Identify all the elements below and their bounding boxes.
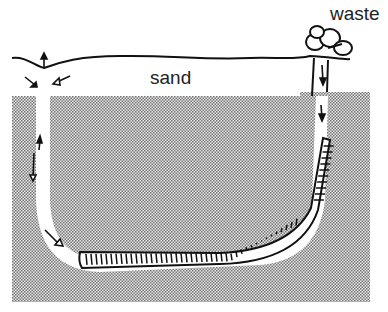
worm-segment: [196, 253, 197, 262]
lugworm-burrow-diagram: sand waste: [0, 0, 388, 312]
worm-segment: [256, 243, 257, 244]
arrow-down-left-icon: [53, 76, 70, 85]
worm-segment: [291, 222, 292, 228]
worm-segment: [126, 254, 127, 264]
worm-segment: [271, 235, 272, 237]
worm-segment: [151, 253, 152, 263]
worm-segment: [186, 253, 187, 262]
worm-segment: [111, 254, 112, 264]
worm-segment: [141, 253, 142, 263]
worm-segment: [161, 253, 162, 263]
worm-segment: [106, 254, 107, 265]
worm-segment: [296, 219, 297, 226]
worm-segment: [226, 253, 227, 262]
head-shaft-wall-right: [327, 60, 328, 92]
worm-segment: [156, 253, 157, 263]
worm-segment: [276, 231, 277, 234]
worm-segment: [266, 238, 267, 239]
worm-segment: [246, 247, 247, 251]
worm-segment: [286, 225, 287, 230]
worm-segment: [211, 253, 212, 262]
worm-segment: [221, 253, 222, 262]
arrow-down-icon: [320, 65, 326, 85]
worm-segment: [136, 254, 137, 264]
worm-segment: [171, 253, 172, 262]
label-sand: sand: [150, 67, 191, 88]
worm-segment: [236, 251, 237, 257]
worm-segment: [121, 254, 122, 264]
worm-segment: [231, 254, 232, 261]
worm-segment: [176, 253, 177, 262]
worm-segment: [166, 253, 167, 263]
worm-segment: [96, 254, 97, 265]
worm-segment: [91, 254, 92, 265]
worm-segment: [146, 253, 147, 263]
worm-segment: [201, 253, 202, 262]
worm-segment: [116, 254, 117, 264]
worm-segment: [101, 254, 102, 265]
worm-segment: [241, 249, 242, 254]
worm-segment: [281, 228, 282, 232]
worm-segment: [86, 254, 87, 265]
worm-segment: [206, 253, 207, 262]
arrow-down-right-icon: [25, 77, 37, 87]
worm-segment: [181, 253, 182, 262]
arrow-up-icon: [41, 53, 47, 68]
worm-segment: [131, 254, 132, 264]
waste-casts: [306, 26, 352, 55]
worm-segment: [191, 253, 192, 262]
head-shaft-wall-left: [312, 58, 314, 96]
label-waste: waste: [329, 3, 380, 24]
worm-segment: [251, 245, 252, 248]
worm-segment: [216, 253, 217, 262]
